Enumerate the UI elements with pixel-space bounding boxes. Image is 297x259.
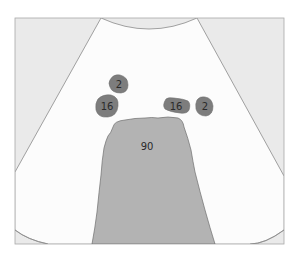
region-2-left-label: 2: [116, 79, 122, 90]
region-16-left-label: 16: [101, 101, 114, 112]
region-90-label: 90: [141, 141, 154, 152]
region-16-right-label: 16: [170, 101, 183, 112]
region-2-right-label: 2: [202, 101, 208, 112]
ultrasound-diagram: 2 16 16 2 90: [0, 0, 297, 259]
